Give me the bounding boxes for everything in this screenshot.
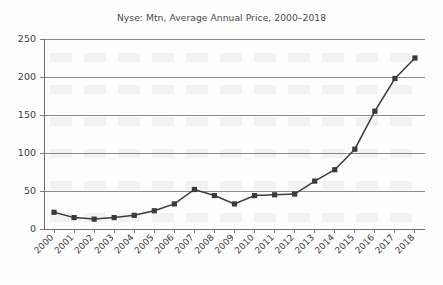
x-tick-label: 2004 — [112, 232, 135, 255]
x-tick-label: 2010 — [233, 232, 256, 255]
x-tick-label: 2014 — [313, 232, 336, 255]
x-tick-label: 2006 — [152, 232, 175, 255]
x-tick-label: 2003 — [92, 232, 115, 255]
x-tick-label: 2018 — [393, 232, 416, 255]
data-point-marker — [112, 215, 117, 220]
data-point-marker — [372, 109, 377, 114]
chart-container: Nyse: Mtn, Average Annual Price, 2000–20… — [0, 0, 443, 285]
data-point-marker — [132, 213, 137, 218]
data-point-marker — [352, 147, 357, 152]
data-point-marker — [152, 208, 157, 213]
x-tick-label: 2013 — [293, 232, 316, 255]
data-point-marker — [232, 201, 237, 206]
x-tick-label: 2007 — [173, 232, 196, 255]
background-watermark — [50, 53, 412, 222]
data-point-marker — [71, 215, 76, 220]
data-point-marker — [412, 55, 417, 60]
y-axis: 050100150200250 — [18, 33, 44, 234]
x-tick-label: 2000 — [32, 232, 55, 255]
data-point-marker — [92, 217, 97, 222]
data-point-marker — [252, 193, 257, 198]
data-markers — [51, 55, 417, 221]
data-point-marker — [292, 191, 297, 196]
data-point-marker — [172, 201, 177, 206]
data-point-marker — [272, 192, 277, 197]
data-point-marker — [192, 187, 197, 192]
data-point-marker — [332, 167, 337, 172]
x-tick-label: 2001 — [52, 232, 75, 255]
y-tick-label: 200 — [18, 71, 36, 82]
x-tick-label: 2012 — [273, 232, 296, 255]
data-point-marker — [312, 179, 317, 184]
x-tick-label: 2008 — [193, 232, 216, 255]
y-tick-label: 0 — [30, 223, 36, 234]
y-tick-label: 150 — [18, 109, 36, 120]
gridlines — [44, 39, 425, 229]
data-series — [54, 58, 415, 219]
y-tick-label: 50 — [24, 185, 36, 196]
y-tick-label: 100 — [18, 147, 36, 158]
data-point-marker — [212, 193, 217, 198]
x-tick-label: 2005 — [132, 232, 155, 255]
x-tick-label: 2009 — [213, 232, 236, 255]
x-tick-label: 2016 — [353, 232, 376, 255]
x-tick-label: 2017 — [373, 232, 396, 255]
x-tick-label: 2002 — [72, 232, 95, 255]
x-tick-label: 2015 — [333, 232, 356, 255]
series-line-average-annual-price — [54, 58, 415, 219]
data-point-marker — [51, 210, 56, 215]
line-chart-plot: 050100150200250 200020012002200320042005… — [0, 0, 443, 285]
y-tick-label: 250 — [18, 33, 36, 44]
x-axis: 2000200120022003200420052006200720082009… — [32, 229, 425, 256]
data-point-marker — [392, 76, 397, 81]
x-tick-label: 2011 — [253, 232, 276, 255]
